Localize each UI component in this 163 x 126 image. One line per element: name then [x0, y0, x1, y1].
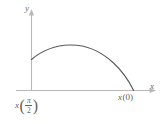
label-right-close-paren: ): [130, 93, 133, 102]
label-x-zero: x ( 0 ): [118, 93, 133, 102]
y-axis-label: y: [25, 4, 29, 13]
trajectory-curve: [32, 45, 134, 90]
label-left-variable: x: [15, 101, 19, 110]
y-axis-arrowhead: [29, 9, 34, 16]
label-right-variable: x: [118, 93, 122, 102]
pi-over-two-fraction: π 2: [25, 97, 32, 114]
fraction-numerator: π: [26, 97, 32, 105]
fraction-denominator: 2: [26, 106, 32, 114]
plot-figure: y x x ( π 2 ) x ( 0 ): [0, 0, 163, 126]
label-x-pi-over-2: x ( π 2 ): [15, 97, 38, 114]
x-axis-label: x: [150, 82, 154, 91]
